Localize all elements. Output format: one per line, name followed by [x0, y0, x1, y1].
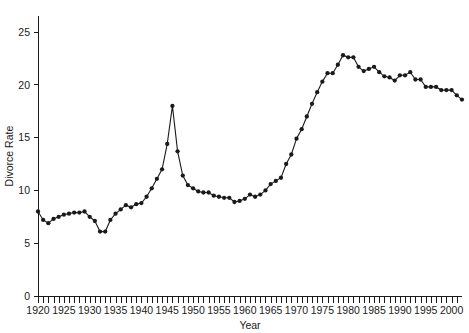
data-point: [170, 104, 174, 108]
data-point: [455, 93, 459, 97]
data-point: [191, 186, 195, 190]
data-point: [150, 186, 154, 190]
data-point: [232, 200, 236, 204]
y-axis: 0510152025: [18, 16, 38, 302]
data-point: [129, 205, 133, 209]
axis-titles: YearDivorce Rate: [3, 126, 261, 331]
data-point: [98, 229, 102, 233]
data-point: [93, 219, 97, 223]
data-point: [362, 69, 366, 73]
data-point: [315, 90, 319, 94]
y-tick-label: 15: [18, 131, 30, 143]
data-point: [284, 162, 288, 166]
data-point: [77, 210, 81, 214]
data-point: [424, 85, 428, 89]
data-point: [263, 188, 267, 192]
data-point: [341, 53, 345, 57]
data-point: [393, 78, 397, 82]
data-point: [113, 211, 117, 215]
data-point: [88, 215, 92, 219]
data-point: [258, 192, 262, 196]
data-point: [57, 215, 61, 219]
series-line: [38, 55, 462, 231]
x-tick-label: 1990: [388, 304, 412, 316]
x-tick-label: 1970: [285, 304, 309, 316]
x-tick-label: 1945: [156, 304, 180, 316]
data-point: [356, 65, 360, 69]
data-point: [331, 71, 335, 75]
x-tick-label: 1960: [233, 304, 257, 316]
y-tick-label: 25: [18, 26, 30, 38]
data-point: [51, 217, 55, 221]
y-tick-label: 20: [18, 79, 30, 91]
x-tick-label: 1975: [311, 304, 335, 316]
divorce-rate-chart: 0510152025 19201925193019351940194519501…: [0, 0, 469, 333]
x-tick-label: 1925: [52, 304, 76, 316]
data-point: [134, 202, 138, 206]
data-point: [67, 211, 71, 215]
x-tick-label: 1965: [259, 304, 283, 316]
data-point: [119, 207, 123, 211]
chart-canvas: 0510152025 19201925193019351940194519501…: [0, 0, 469, 333]
data-point: [212, 194, 216, 198]
data-point: [248, 192, 252, 196]
data-point: [165, 142, 169, 146]
data-point: [346, 55, 350, 59]
data-point: [294, 137, 298, 141]
x-tick-label: 1935: [104, 304, 128, 316]
data-point: [279, 176, 283, 180]
data-point: [82, 209, 86, 213]
x-tick-label: 1940: [130, 304, 154, 316]
x-axis: 1920192519301935194019451950195519601965…: [26, 297, 463, 317]
data-point: [310, 102, 314, 106]
data-point: [160, 167, 164, 171]
data-point: [429, 85, 433, 89]
data-point: [367, 67, 371, 71]
data-point: [413, 77, 417, 81]
data-point: [305, 114, 309, 118]
data-point: [196, 189, 200, 193]
data-point: [222, 196, 226, 200]
data-point: [403, 73, 407, 77]
data-point: [274, 179, 278, 183]
data-point: [175, 149, 179, 153]
data-point: [227, 196, 231, 200]
x-tick-label: 1920: [26, 304, 50, 316]
x-tick-label: 1985: [362, 304, 386, 316]
data-point: [62, 213, 66, 217]
data-point: [124, 203, 128, 207]
data-point: [325, 71, 329, 75]
data-point: [408, 70, 412, 74]
x-tick-label: 2000: [440, 304, 464, 316]
data-point: [181, 173, 185, 177]
data-point: [217, 195, 221, 199]
data-point: [351, 55, 355, 59]
data-point: [155, 177, 159, 181]
data-point: [289, 152, 293, 156]
data-point: [439, 88, 443, 92]
data-point: [320, 79, 324, 83]
data-point: [336, 63, 340, 67]
data-point: [418, 77, 422, 81]
data-point: [269, 182, 273, 186]
data-point: [382, 74, 386, 78]
y-tick-label: 0: [24, 290, 30, 302]
y-tick-label: 10: [18, 184, 30, 196]
data-series-divorce-rate: [36, 53, 464, 234]
data-point: [206, 190, 210, 194]
data-point: [103, 229, 107, 233]
data-point: [387, 75, 391, 79]
data-point: [139, 201, 143, 205]
data-point: [372, 65, 376, 69]
data-point: [460, 97, 464, 101]
data-point: [186, 183, 190, 187]
y-axis-title: Divorce Rate: [3, 126, 15, 187]
x-tick-label: 1980: [337, 304, 361, 316]
data-point: [144, 195, 148, 199]
y-tick-label: 5: [24, 237, 30, 249]
data-point: [377, 70, 381, 74]
data-point: [41, 218, 45, 222]
data-point: [201, 190, 205, 194]
data-point: [243, 197, 247, 201]
x-axis-title: Year: [239, 319, 261, 331]
